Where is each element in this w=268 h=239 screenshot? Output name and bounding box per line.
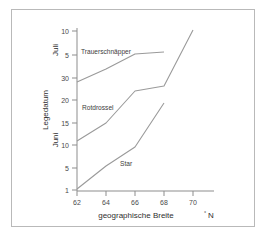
y-axis-month-labels: Juli Juni [51, 44, 60, 148]
y-tick-label-juni-10: 10 [61, 142, 69, 149]
y-tick-label-juni-20: 20 [61, 97, 69, 104]
y-tick-label-juni-30: 30 [61, 75, 69, 82]
x-tick-label-64: 64 [102, 199, 110, 206]
x-tick-labels: 62 64 66 68 70 [73, 199, 197, 206]
y-tick-label-juni-1: 1 [65, 187, 69, 194]
x-axis-unit-north: N [208, 211, 214, 220]
x-tick-marks [77, 191, 193, 196]
y-axis-title: Legedatum [41, 90, 50, 130]
x-tick-label-66: 66 [131, 199, 139, 206]
series-label-rotdrossel: Rotdrossel [82, 104, 114, 111]
month-label-juni: Juni [51, 132, 60, 147]
series-line-trauerschnaepper [77, 52, 164, 82]
y-tick-label-juni-5: 5 [65, 165, 69, 172]
chart-canvas: 10 5 30 20 15 10 5 1 Juli Juni Legedatum [0, 0, 268, 239]
x-tick-label-62: 62 [73, 199, 81, 206]
y-tick-marks [72, 31, 77, 190]
x-axis-unit-degree: ° [204, 210, 206, 216]
y-tick-label-juli-10: 10 [61, 28, 69, 35]
series-label-star: Star [120, 160, 133, 167]
series-label-trauerschnaepper: Trauerschnäpper [81, 48, 132, 56]
y-tick-label-juli-5: 5 [65, 52, 69, 59]
series-line-rotdrossel [77, 30, 193, 141]
x-tick-label-68: 68 [160, 199, 168, 206]
y-tick-label-juni-15: 15 [61, 120, 69, 127]
y-tick-labels: 10 5 30 20 15 10 5 1 [61, 28, 69, 194]
series-line-star [77, 103, 164, 189]
x-tick-label-70: 70 [189, 199, 197, 206]
x-axis-title: geographische Breite [98, 211, 174, 220]
chart-page: 10 5 30 20 15 10 5 1 Juli Juni Legedatum [0, 0, 268, 239]
month-label-juli: Juli [51, 44, 60, 56]
